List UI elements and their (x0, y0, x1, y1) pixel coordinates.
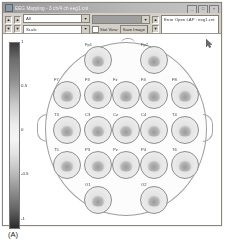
channel-stepper-up[interactable]: ▲ (5, 16, 12, 24)
electrode-label: Fz (113, 77, 118, 82)
electrode-topomap[interactable] (140, 151, 168, 179)
electrode-label: T6 (172, 147, 177, 152)
amplitude-stepper-up[interactable]: ▲ (152, 16, 159, 24)
electrode-label: Pz (113, 147, 118, 152)
electrode-topomap[interactable] (112, 151, 140, 179)
head-map: Fp1Fp2F7F3FzF4F8T3C3CzC4T4T5P3PzP4T6O1O2 (29, 36, 221, 226)
electrode-topomap[interactable] (84, 81, 112, 109)
electrode-topomap[interactable] (171, 116, 199, 144)
window-title: EEG Mapping - 3 ch/4 ch eeg1.cnt (15, 6, 88, 11)
nose-marker (121, 38, 135, 48)
colorbar-tick-neg05: -0.5 (21, 171, 29, 176)
electrode-label: O1 (85, 182, 90, 187)
palette-group: ▼ Stat View Save Image (92, 15, 150, 33)
electrode-label: F8 (172, 77, 177, 82)
electrode-topomap[interactable] (84, 151, 112, 179)
palette-select[interactable]: ▼ (92, 15, 150, 24)
checkbox-box[interactable] (92, 26, 99, 33)
amplitude-stepper-down[interactable]: ▼ (152, 25, 159, 33)
electrode-topomap[interactable] (140, 46, 168, 74)
electrode-field-blob (120, 90, 133, 101)
electrode-label: P4 (141, 147, 146, 152)
application-window: EEG Mapping - 3 ch/4 ch eeg1.cnt _ □ × ▲… (2, 2, 222, 226)
electrode-topomap[interactable] (140, 81, 168, 109)
electrode-topomap[interactable] (53, 81, 81, 109)
electrode-field-blob (92, 195, 105, 206)
electrode-field-blob (92, 55, 105, 66)
electrode-label: F4 (141, 77, 146, 82)
electrode-label: C3 (85, 112, 90, 117)
electrode-field-blob (92, 90, 105, 101)
electrode-field-blob (179, 160, 192, 171)
electrode-label: O2 (141, 182, 146, 187)
chevron-down-icon[interactable]: ▼ (81, 15, 89, 22)
electrode-field-blob (148, 195, 161, 206)
electrode-label: F7 (54, 77, 59, 82)
electrode-field-blob (148, 160, 161, 171)
topography-plot-area: 1 0.5 0 -0.5 -1 Fp1Fp2F7F3FzF4F8T3C3CzC4… (3, 33, 221, 225)
electrode-field-blob (120, 160, 133, 171)
amplitude-stepper[interactable]: ▲ ▼ (152, 16, 159, 33)
colorbar-tick-0.5: 0.5 (21, 83, 27, 88)
electrode-topomap[interactable] (140, 186, 168, 214)
electrode-field-blob (148, 90, 161, 101)
electrode-topomap[interactable] (53, 151, 81, 179)
colorbar-tick-0: 0 (21, 127, 23, 132)
electrode-field-blob (61, 125, 74, 136)
electrode-label: Fp1 (85, 42, 92, 47)
chevron-down-icon[interactable]: ▼ (81, 26, 89, 33)
scale-select-value: Scale (24, 27, 37, 32)
electrode-field-blob (92, 125, 105, 136)
colorbar-tick-1: 1 (21, 39, 23, 44)
electrode-field-blob (179, 90, 192, 101)
electrode-field-blob (120, 125, 133, 136)
electrode-field-blob (148, 125, 161, 136)
frame-stepper-up[interactable]: ▲ (14, 16, 21, 24)
electrode-label: T3 (54, 112, 59, 117)
electrode-label: Fp2 (141, 42, 148, 47)
frame-stepper-down[interactable]: ▼ (14, 25, 21, 33)
electrode-topomap[interactable] (112, 116, 140, 144)
electrode-topomap[interactable] (53, 116, 81, 144)
electrode-field-blob (179, 125, 192, 136)
arrow-cursor (206, 39, 213, 48)
selector-group: All ▼ Scale ▼ (23, 14, 90, 34)
window-title-bar[interactable]: EEG Mapping - 3 ch/4 ch eeg1.cnt _ □ × (3, 3, 221, 13)
electrode-field-blob (61, 90, 74, 101)
channel-select-value: All (24, 16, 31, 21)
electrode-topomap[interactable] (84, 186, 112, 214)
electrode-label: C4 (141, 112, 146, 117)
left-ear-marker (37, 114, 47, 142)
electrode-topomap[interactable] (84, 46, 112, 74)
stat-view-checkbox[interactable]: Stat View (92, 26, 118, 33)
electrode-topomap[interactable] (84, 116, 112, 144)
electrode-field-blob (92, 160, 105, 171)
channel-stepper-down[interactable]: ▼ (5, 25, 12, 33)
electrode-topomap[interactable] (112, 81, 140, 109)
electrode-label: Cz (113, 112, 118, 117)
electrode-field-blob (148, 55, 161, 66)
electrode-topomap[interactable] (171, 151, 199, 179)
eeg-window-icon (5, 4, 13, 12)
frame-stepper[interactable]: ▲ ▼ (14, 16, 21, 33)
figure-caption: (A) (8, 230, 18, 239)
view-options-row: Stat View Save Image (92, 26, 150, 33)
electrode-topomap[interactable] (140, 116, 168, 144)
channel-select[interactable]: All ▼ (23, 14, 90, 23)
electrode-label: P3 (85, 147, 90, 152)
channel-stepper[interactable]: ▲ ▼ (5, 16, 12, 33)
colorbar (9, 42, 20, 229)
electrode-field-blob (61, 160, 74, 171)
chevron-down-icon[interactable]: ▼ (141, 16, 149, 23)
electrode-label: T4 (172, 112, 177, 117)
electrode-label: F3 (85, 77, 90, 82)
colorbar-tick-neg1: -1 (21, 216, 25, 221)
stat-view-label: Stat View (100, 27, 118, 32)
electrode-label: T5 (54, 147, 59, 152)
status-info-field[interactable]: Error Open LAP : eeg1.cnt (161, 15, 219, 34)
electrode-topomap[interactable] (171, 81, 199, 109)
right-ear-marker (203, 114, 213, 142)
